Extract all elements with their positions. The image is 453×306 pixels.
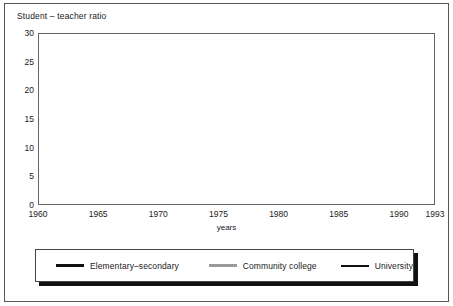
legend-label-elementary-secondary: Elementary–secondary [90,261,179,271]
x-tick-label: 1985 [329,209,348,219]
legend-line-icon-community-college [209,264,237,267]
x-tick-label: 1960 [29,209,48,219]
x-axis-caption: years [0,223,453,232]
legend-label-community-college: Community college [243,261,317,271]
x-axis-labels: 19601965197019751980198519901993 [0,209,453,223]
plot-frame [38,33,435,205]
legend-line-icon-elementary-secondary [56,264,84,267]
x-tick-label: 1990 [389,209,408,219]
chart-title: Student – teacher ratio [17,11,106,21]
y-tick-label: 5 [29,171,34,181]
legend-label-university: University [375,261,413,271]
plot-area [38,33,435,205]
x-tick-label: 1965 [89,209,108,219]
y-tick-label: 30 [25,28,34,38]
chart-legend: Elementary–secondary Community college U… [35,249,414,282]
y-tick-label: 15 [25,114,34,124]
legend-item-elementary-secondary: Elementary–secondary [56,261,179,271]
y-tick-label: 20 [25,85,34,95]
legend-item-community-college: Community college [209,261,317,271]
legend-line-icon-university [341,265,369,267]
y-tick-label: 10 [25,143,34,153]
x-tick-label: 1970 [149,209,168,219]
x-tick-label: 1975 [209,209,228,219]
figure-container: Student – teacher ratio 302520151050 196… [0,0,453,306]
x-tick-label: 1993 [426,209,445,219]
x-tick-label: 1980 [269,209,288,219]
y-tick-label: 25 [25,57,34,67]
legend-item-university: University [341,261,413,271]
y-axis-labels: 302520151050 [12,28,34,210]
